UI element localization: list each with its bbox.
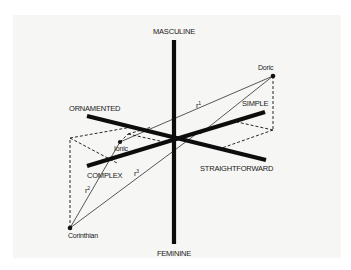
- complex-label: COMPLEX: [87, 171, 122, 180]
- r3-label: r3: [134, 168, 139, 178]
- semantic-space-diagram: MASCULINE FEMININE ORNAMENTED STRAIGHTFO…: [0, 0, 351, 270]
- doric-point: [271, 74, 276, 79]
- ionic-label: Ionic: [114, 145, 128, 152]
- r3-line: [70, 135, 195, 228]
- ionic-proj-b: [128, 134, 160, 141]
- r1-label: r1: [196, 100, 201, 110]
- feminine-label: FEMININE: [157, 249, 191, 258]
- doric-to-straightforward-axis: [219, 130, 273, 149]
- doric-to-simple-axis: [237, 122, 273, 130]
- r2-line: [70, 142, 120, 228]
- ornamented-label: ORNAMENTED: [69, 104, 121, 113]
- corinthian-label: Corinthian: [68, 232, 98, 239]
- r2-label: r2: [85, 185, 90, 195]
- doric-label: Doric: [258, 64, 274, 71]
- ionic-point: [118, 140, 122, 144]
- masculine-label: MASCULINE: [153, 27, 195, 36]
- corinthian-to-ornamented-axis: [70, 127, 132, 138]
- simple-label: SIMPLE: [242, 99, 269, 108]
- straightforward-label: STRAIGHTFORWARD: [200, 164, 274, 173]
- corinthian-point: [68, 226, 73, 231]
